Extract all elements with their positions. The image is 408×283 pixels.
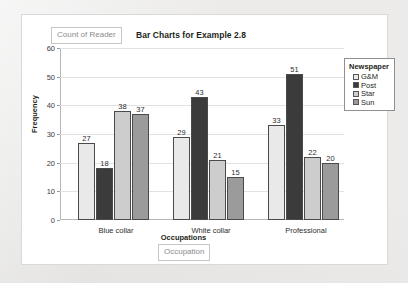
y-tick-label: 50 bbox=[47, 72, 55, 81]
legend-item-label: Post bbox=[361, 82, 376, 90]
y-tick-mark bbox=[57, 191, 60, 192]
y-axis-title: Frequency bbox=[30, 95, 39, 133]
legend-item-label: Star bbox=[361, 90, 375, 98]
bar-value-label: 21 bbox=[213, 151, 221, 160]
y-tick-mark bbox=[57, 77, 60, 78]
x-axis-title-text: Occupations bbox=[161, 233, 206, 242]
bar-sun[interactable]: 37 bbox=[132, 114, 149, 220]
y-tick-mark bbox=[57, 134, 60, 135]
bar-star[interactable]: 21 bbox=[209, 160, 226, 220]
legend-item[interactable]: Star bbox=[349, 90, 389, 98]
page-background: Count of Reader Bar Charts for Example 2… bbox=[0, 0, 408, 283]
plot-inner: 010203040506027183837Blue collar29432115… bbox=[60, 48, 344, 220]
bar-post[interactable]: 51 bbox=[286, 74, 303, 220]
bar-value-label: 29 bbox=[177, 128, 185, 137]
legend-item[interactable]: Sun bbox=[349, 99, 389, 107]
legend-swatch-icon bbox=[353, 91, 359, 97]
legend: Newspaper G&MPostStarSun bbox=[344, 58, 395, 111]
bar-value-label: 18 bbox=[100, 159, 108, 168]
legend-swatch-icon bbox=[353, 74, 359, 80]
bar-post[interactable]: 18 bbox=[96, 168, 113, 220]
y-tick-label: 30 bbox=[47, 130, 55, 139]
bar-value-label: 15 bbox=[231, 168, 239, 177]
bar-group: 29432115White collar bbox=[173, 48, 249, 220]
bar-star[interactable]: 22 bbox=[304, 157, 321, 220]
bar-g-m[interactable]: 33 bbox=[268, 125, 285, 220]
bar-value-label: 22 bbox=[308, 148, 316, 157]
legend-item[interactable]: Post bbox=[349, 82, 389, 90]
count-of-reader-pill[interactable]: Count of Reader bbox=[51, 27, 122, 44]
y-tick-mark bbox=[57, 105, 60, 106]
legend-swatch-icon bbox=[353, 82, 359, 88]
bar-value-label: 27 bbox=[82, 134, 90, 143]
bar-star[interactable]: 38 bbox=[114, 111, 131, 220]
bar-group: 33512220Professional bbox=[268, 48, 344, 220]
bar-value-label: 33 bbox=[272, 116, 280, 125]
x-axis-title: Occupations bbox=[22, 233, 389, 242]
bar-sun[interactable]: 20 bbox=[322, 163, 339, 220]
legend-item-label: Sun bbox=[361, 99, 374, 107]
y-tick-mark bbox=[57, 48, 60, 49]
legend-item-label: G&M bbox=[361, 73, 378, 81]
bar-value-label: 51 bbox=[290, 65, 298, 74]
bar-group: 27183837Blue collar bbox=[78, 48, 154, 220]
bar-g-m[interactable]: 29 bbox=[173, 137, 190, 220]
legend-items: G&MPostStarSun bbox=[349, 73, 389, 106]
legend-swatch-icon bbox=[353, 99, 359, 105]
bar-value-label: 38 bbox=[118, 102, 126, 111]
y-tick-mark bbox=[57, 220, 60, 221]
y-tick-label: 60 bbox=[47, 44, 55, 53]
bar-g-m[interactable]: 27 bbox=[78, 143, 95, 220]
bar-post[interactable]: 43 bbox=[191, 97, 208, 220]
legend-item[interactable]: G&M bbox=[349, 73, 389, 81]
y-tick-label: 40 bbox=[47, 101, 55, 110]
occupation-pill[interactable]: Occupation bbox=[158, 244, 210, 261]
bar-value-label: 37 bbox=[136, 105, 144, 114]
chart-title: Bar Charts for Example 2.8 bbox=[136, 30, 246, 40]
y-tick-mark bbox=[57, 163, 60, 164]
bar-sun[interactable]: 15 bbox=[227, 177, 244, 220]
bar-value-label: 20 bbox=[326, 154, 334, 163]
y-tick-label: 20 bbox=[47, 158, 55, 167]
y-tick-label: 0 bbox=[51, 216, 55, 225]
legend-title: Newspaper bbox=[349, 62, 389, 71]
y-tick-label: 10 bbox=[47, 187, 55, 196]
chart-card: Count of Reader Bar Charts for Example 2… bbox=[21, 14, 388, 265]
plot-area: 010203040506027183837Blue collar29432115… bbox=[60, 48, 344, 220]
bar-value-label: 43 bbox=[195, 88, 203, 97]
